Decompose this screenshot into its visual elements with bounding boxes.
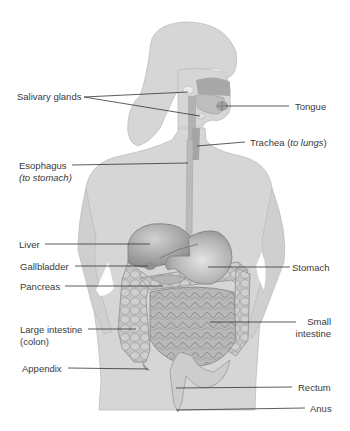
label-rectum: Rectum: [298, 382, 331, 393]
label-stomach: Stomach: [292, 262, 330, 273]
label-appendix: Appendix: [22, 363, 62, 374]
label-esophagus-sub: (to stomach): [19, 172, 72, 183]
label-salivary-glands: Salivary glands: [17, 91, 81, 102]
esophagus-shape: [186, 140, 193, 240]
label-liver: Liver: [19, 239, 40, 250]
small-intestine-shape: [150, 287, 236, 366]
label-esophagus: Esophagus: [19, 160, 67, 171]
label-gallbladder: Gallbladder: [20, 261, 69, 272]
label-pancreas: Pancreas: [20, 281, 60, 292]
label-small-intestine: Small: [307, 316, 331, 327]
label-trachea-close: ): [324, 137, 327, 148]
label-anus: Anus: [310, 403, 332, 414]
label-trachea-italic: to lungs: [290, 137, 323, 148]
label-trachea-main: Trachea (: [250, 137, 290, 148]
label-small-intestine-sub: intestine: [296, 328, 331, 339]
label-trachea: Trachea (to lungs): [250, 137, 327, 148]
label-large-intestine-sub: (colon): [20, 336, 49, 347]
digestive-system-diagram: Salivary glands Esophagus (to stomach) L…: [0, 0, 350, 431]
salivary-gland-upper: [183, 86, 193, 94]
label-tongue: Tongue: [295, 101, 326, 112]
label-large-intestine: Large intestine: [20, 324, 82, 335]
